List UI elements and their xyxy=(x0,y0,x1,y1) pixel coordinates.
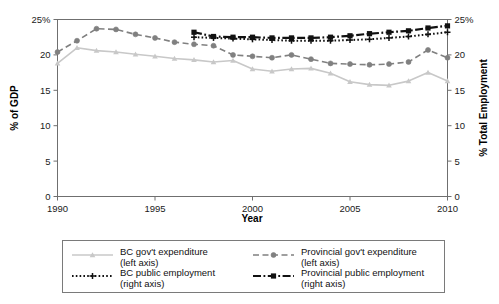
series-marker xyxy=(211,34,216,39)
series-marker xyxy=(250,35,255,40)
series-marker xyxy=(231,52,236,57)
series-marker xyxy=(191,30,196,35)
y-tick-label-right: 25% xyxy=(455,14,475,25)
x-tick-label: 1990 xyxy=(47,203,68,214)
series-marker xyxy=(425,31,431,37)
series-marker xyxy=(348,62,353,67)
series-marker xyxy=(308,35,313,40)
chart-figure: 0510152025% 0510152025% 1990199520002005… xyxy=(0,0,499,304)
series-marker xyxy=(172,40,177,45)
y-tick-label-left: 5 xyxy=(45,156,50,167)
series-marker xyxy=(269,35,274,40)
legend-label-axis: (right axis) xyxy=(301,278,345,289)
series-marker xyxy=(406,28,411,33)
y-axis-left-ticks: 0510152025% xyxy=(31,14,57,202)
y-tick-label-right: 10 xyxy=(455,120,466,131)
y-tick-label-left: 20 xyxy=(40,49,51,60)
x-tick-label: 1995 xyxy=(144,203,165,214)
series-marker xyxy=(367,31,372,36)
x-axis-title: Year xyxy=(241,213,262,224)
series-marker xyxy=(387,62,392,67)
x-tick-label: 2000 xyxy=(242,203,263,214)
legend-label-primary: BC gov't expenditure xyxy=(120,246,208,257)
y-tick-label-right: 15 xyxy=(455,85,466,96)
series-marker xyxy=(75,38,80,43)
series-marker xyxy=(425,70,431,75)
series-marker xyxy=(289,35,294,40)
series-marker xyxy=(114,27,119,32)
legend-sample-marker xyxy=(271,273,276,278)
x-tick-label: 2005 xyxy=(339,203,360,214)
x-tick-label: 2010 xyxy=(437,203,458,214)
series-marker xyxy=(347,33,352,38)
series-marker xyxy=(445,29,451,35)
series-marker xyxy=(270,55,275,60)
series-marker xyxy=(309,57,314,62)
y-tick-label-left: 25% xyxy=(31,14,51,25)
series-marker xyxy=(445,55,450,60)
series-marker xyxy=(445,23,450,28)
series-provincial-public-employment xyxy=(191,23,450,40)
y-axis-right-ticks: 0510152025% xyxy=(448,14,475,202)
series-marker xyxy=(133,32,138,37)
series-marker xyxy=(328,61,333,66)
series-marker xyxy=(191,34,197,40)
y-axis-left-title: % of GDP xyxy=(9,85,20,131)
series-marker xyxy=(55,50,60,55)
series-marker xyxy=(426,47,431,52)
y-axis-right-title: % Total Employment xyxy=(478,59,489,157)
series-marker xyxy=(250,54,255,59)
chart-canvas: 0510152025% 0510152025% 1990199520002005… xyxy=(0,0,499,304)
y-tick-label-right: 20 xyxy=(455,49,466,60)
series-marker xyxy=(328,35,333,40)
series-marker xyxy=(289,52,294,57)
y-tick-label-right: 0 xyxy=(455,191,460,202)
series-marker xyxy=(211,43,216,48)
legend-label-primary: Provincial gov't expenditure xyxy=(301,246,417,257)
series-marker xyxy=(406,33,412,39)
legend-label-primary: BC public employment xyxy=(120,267,215,278)
series-bc-gov-t-expenditure xyxy=(55,45,451,88)
series-marker xyxy=(386,30,391,35)
x-axis-ticks: 19901995200020052010 xyxy=(47,197,458,214)
series-marker xyxy=(153,35,158,40)
series-marker xyxy=(406,59,411,64)
y-tick-label-left: 15 xyxy=(40,85,51,96)
series-marker xyxy=(230,35,235,40)
data-series-layer xyxy=(55,23,451,87)
series-marker xyxy=(367,62,372,67)
y-tick-label-right: 5 xyxy=(455,156,460,167)
y-tick-label-left: 0 xyxy=(45,191,50,202)
legend-label-primary: Provincial public employment xyxy=(301,267,424,278)
legend-label-axis: (right axis) xyxy=(120,278,164,289)
plot-frame xyxy=(58,20,448,197)
series-marker xyxy=(386,35,392,41)
series-marker xyxy=(367,36,373,42)
series-marker xyxy=(425,25,430,30)
series-marker xyxy=(192,42,197,47)
legend-sample-marker xyxy=(271,253,276,258)
series-marker xyxy=(94,26,99,31)
y-tick-label-left: 10 xyxy=(40,120,51,131)
